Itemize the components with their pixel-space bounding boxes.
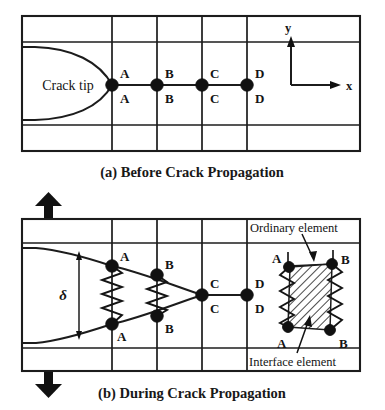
panel-b-node-label-D-upper: D: [255, 276, 264, 291]
panel-a-node-label-D-lower: D: [255, 91, 264, 106]
inset-label-A-upper: A: [272, 251, 282, 266]
inset-label-A-lower: A: [277, 336, 287, 351]
panel-a-node-label-C-upper: C: [210, 66, 219, 81]
panel-a-node-A: [106, 79, 118, 91]
panel-b-node-label-D-lower: D: [255, 301, 264, 316]
panel-b-caption: (b) During Crack Propagation: [98, 385, 286, 402]
panel-a-node-label-C-lower: C: [210, 91, 219, 106]
panel-a-node-label-A-upper: A: [120, 66, 130, 81]
panel-b-node-label-B-upper: B: [165, 257, 174, 272]
panel-b-node-A-upper: [106, 260, 118, 272]
panel-b-node-B-upper: [151, 269, 163, 281]
ordinary-element-label: Ordinary element: [250, 221, 338, 235]
panel-b-node-label-A-lower: A: [117, 329, 127, 344]
panel-a-caption: (a) Before Crack Propagation: [100, 164, 284, 181]
panel-b-node-label-A-upper: A: [120, 249, 130, 264]
crack-tip-label: Crack tip: [42, 78, 94, 93]
panel-b-node-B-lower: [151, 310, 163, 322]
inset-node-B-upper: [327, 259, 338, 270]
panel-b-node-label-B-lower: B: [165, 321, 174, 336]
inset-node-A-lower: [283, 322, 294, 333]
panel-a-node-C: [196, 79, 208, 91]
panel-b-node-D: [241, 289, 253, 301]
panel-a-node-label-B-lower: B: [165, 91, 174, 106]
y-axis-label: y: [285, 21, 292, 35]
panel-a-node-B: [151, 79, 163, 91]
delta-symbol-label: δ: [59, 287, 67, 303]
panel-b-node-label-C-upper: C: [210, 276, 219, 291]
interface-element-label: Interface element: [249, 355, 337, 369]
inset-label-B-upper: B: [341, 252, 350, 267]
x-axis-label: x: [346, 79, 353, 93]
crack-propagation-figure: Crack tip A B C D A B C D y x (a) Before…: [0, 0, 385, 410]
panel-a-node-D: [241, 79, 253, 91]
panel-a-node-label-B-upper: B: [165, 66, 174, 81]
panel-b-node-C: [196, 289, 208, 301]
inset-node-B-lower: [325, 325, 336, 336]
inset-node-A-upper: [284, 262, 295, 273]
panel-b-node-label-C-lower: C: [210, 301, 219, 316]
panel-a-node-label-D-upper: D: [255, 66, 264, 81]
panel-a-node-label-A-lower: A: [120, 91, 130, 106]
inset-label-B-lower: B: [339, 336, 348, 351]
